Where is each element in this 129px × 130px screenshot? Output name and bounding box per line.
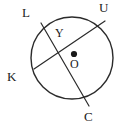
figure-canvas (0, 0, 129, 130)
chord-lc-line (41, 23, 89, 106)
geometry-figure: L U K C Y O (0, 0, 129, 130)
label-point-u: U (99, 1, 108, 14)
label-point-k: K (7, 70, 16, 83)
label-point-c: C (84, 110, 93, 123)
label-center-o: O (70, 58, 79, 71)
label-point-y: Y (55, 27, 64, 40)
label-point-l: L (22, 6, 30, 19)
